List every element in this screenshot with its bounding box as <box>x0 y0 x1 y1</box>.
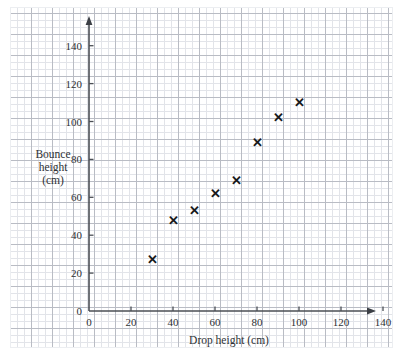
y-tick-label-140: 140 <box>66 40 83 52</box>
x-tick-label-20: 20 <box>126 316 138 328</box>
x-axis-title-text: Drop height (cm) <box>189 334 269 347</box>
data-point-series: ✕✕✕✕✕✕✕✕ <box>147 95 305 267</box>
y-tick-label-120: 120 <box>66 78 83 90</box>
data-point-marker: ✕ <box>294 95 305 110</box>
x-tick-label-100: 100 <box>291 316 308 328</box>
x-tick-label-120: 120 <box>333 316 350 328</box>
y-axis-title-line-3: (cm) <box>42 174 64 187</box>
y-tick-label-20: 20 <box>71 267 83 279</box>
y-axis <box>86 16 93 311</box>
data-point-marker: ✕ <box>189 203 200 218</box>
y-axis-title-line-2: height <box>39 161 69 174</box>
x-tick-label-0: 0 <box>86 316 92 328</box>
data-point-marker: ✕ <box>273 110 284 125</box>
x-axis-ticks: 020406080100120140 <box>86 307 392 329</box>
x-tick-label-60: 60 <box>210 316 222 328</box>
y-tick-label-100: 100 <box>66 116 83 128</box>
y-axis-title-line-1: Bounce <box>35 148 70 160</box>
y-axis-title: Bounce height (cm) <box>35 148 70 187</box>
y-tick-label-80: 80 <box>71 153 83 165</box>
x-tick-label-40: 40 <box>168 316 180 328</box>
data-point-marker: ✕ <box>147 252 158 267</box>
data-point-marker: ✕ <box>231 173 242 188</box>
x-axis-title: Drop height (cm) <box>189 334 269 347</box>
y-tick-label-40: 40 <box>71 229 83 241</box>
data-point-marker: ✕ <box>210 186 221 201</box>
x-axis <box>89 308 376 315</box>
y-axis-arrowhead <box>86 16 93 25</box>
data-point-marker: ✕ <box>252 135 263 150</box>
plot-canvas: 020406080100120140 020406080100120140 Dr… <box>0 0 404 362</box>
y-tick-label-0: 0 <box>77 305 83 317</box>
data-point-marker: ✕ <box>168 213 179 228</box>
x-tick-label-80: 80 <box>252 316 264 328</box>
x-tick-label-140: 140 <box>375 316 392 328</box>
x-axis-arrowhead <box>367 308 376 315</box>
y-tick-label-60: 60 <box>71 191 83 203</box>
scatter-plot-figure: 020406080100120140 020406080100120140 Dr… <box>0 0 404 362</box>
